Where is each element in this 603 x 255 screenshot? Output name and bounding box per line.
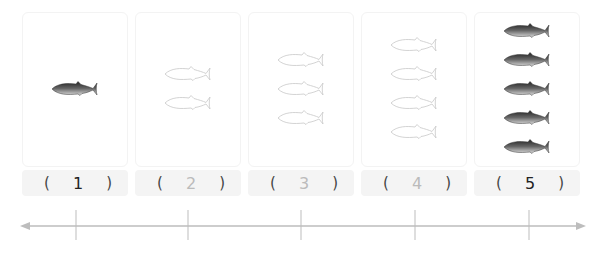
left-arrow-icon [20,222,30,230]
number-line [0,0,603,255]
right-arrow-icon [576,222,586,230]
